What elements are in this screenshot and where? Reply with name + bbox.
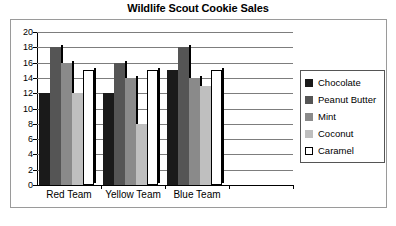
legend-swatch-icon [305,130,313,138]
legend-item: Caramel [305,142,380,159]
y-axis-tick-label: 16 [11,59,33,68]
legend-swatch-icon [305,96,313,104]
y-axis-tick [33,78,37,79]
legend-item: Coconut [305,125,380,142]
bar [147,70,158,185]
x-axis-tick [293,185,294,189]
legend-label: Mint [318,111,336,122]
bar [189,78,200,185]
chart-legend: ChocolatePeanut ButterMintCoconutCaramel [300,70,385,163]
bar-face [147,70,158,185]
bar [125,78,136,185]
y-axis-tick [33,170,37,171]
legend-swatch-icon [305,147,313,155]
bar [103,93,114,185]
y-axis-tick [33,139,37,140]
y-axis-tick-label: 20 [11,28,33,37]
legend-label: Chocolate [318,77,361,88]
legend-item: Peanut Butter [305,91,380,108]
bar-face [50,47,61,185]
bar-shadow [158,68,160,183]
bar-face [136,124,147,185]
y-axis-tick-label: 6 [11,135,33,144]
legend-label: Coconut [318,128,353,139]
bar-group [103,32,158,185]
bar-face [200,86,211,185]
bar-face [167,70,178,185]
bar-face [61,63,72,185]
x-axis-tick [101,185,102,189]
chart-title: Wildlife Scout Cookie Sales [0,2,396,14]
y-axis-tick-label: 12 [11,89,33,98]
y-axis-tick-label: 4 [11,150,33,159]
bar [211,70,222,185]
bar [50,47,61,185]
bar-face [103,93,114,185]
bar-face [83,70,94,185]
y-axis-tick [33,124,37,125]
bar-face [114,63,125,185]
x-axis-tick [229,185,230,189]
bar-shadow [222,68,224,183]
bar [167,70,178,185]
y-axis-tick [33,93,37,94]
y-axis-tick [33,185,37,186]
y-axis-tick [33,109,37,110]
legend-label: Caramel [318,145,354,156]
cookie-sales-chart: Wildlife Scout Cookie Sales 201816141210… [0,0,396,226]
y-axis-tick [33,63,37,64]
bar [39,93,50,185]
legend-item: Mint [305,108,380,125]
bar-group [167,32,222,185]
bar-shadow [94,68,96,183]
y-axis-tick [33,154,37,155]
x-axis-tick [165,185,166,189]
y-axis-tick-label: 14 [11,74,33,83]
y-axis-tick-label: 18 [11,43,33,52]
bar [136,124,147,185]
bar-face [189,78,200,185]
bar [61,63,72,185]
y-axis-tick-label: 2 [11,166,33,175]
legend-item: Chocolate [305,74,380,91]
bar-group [39,32,94,185]
bar [200,86,211,185]
bar-face [39,93,50,185]
bar [72,93,83,185]
y-axis-tick [33,32,37,33]
x-axis-category-label: Blue Team [157,189,237,200]
bar-face [211,70,222,185]
bar-face [125,78,136,185]
bar [178,47,189,185]
legend-swatch-icon [305,113,313,121]
plot-area [37,32,293,185]
y-axis-tick [33,47,37,48]
legend-label: Peanut Butter [318,94,376,105]
bar-face [72,93,83,185]
legend-swatch-icon [305,79,313,87]
bar [114,63,125,185]
y-axis-tick-label: 8 [11,120,33,129]
y-axis-labels: 20181614121086420 [8,32,33,186]
y-axis-tick-label: 10 [11,105,33,114]
bar [83,70,94,185]
bar-face [178,47,189,185]
